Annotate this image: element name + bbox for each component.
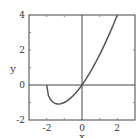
ytick-label: -2 — [16, 115, 25, 125]
ytick-label: 0 — [19, 80, 25, 90]
x-axis-label: x — [79, 131, 85, 138]
xtick-label: -2 — [43, 123, 52, 133]
xtick-label: 2 — [114, 123, 120, 133]
y-axis-label: y — [9, 63, 16, 74]
ytick-label: 2 — [19, 45, 25, 55]
ytick-label: 4 — [19, 10, 25, 20]
chart: 4 2 0 -2 -2 0 2 y x — [0, 0, 140, 138]
